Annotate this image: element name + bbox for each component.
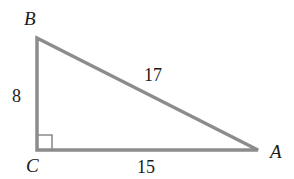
triangle-diagram: B C A 8 17 15	[0, 0, 294, 179]
vertex-label-c: C	[26, 155, 39, 176]
side-label-ca: 15	[137, 157, 155, 177]
vertex-label-a: A	[268, 141, 282, 162]
side-label-ba: 17	[144, 65, 162, 85]
triangle-abc	[37, 38, 258, 150]
vertex-label-b: B	[24, 8, 36, 29]
right-angle-marker	[37, 135, 52, 150]
side-label-bc: 8	[12, 86, 21, 106]
